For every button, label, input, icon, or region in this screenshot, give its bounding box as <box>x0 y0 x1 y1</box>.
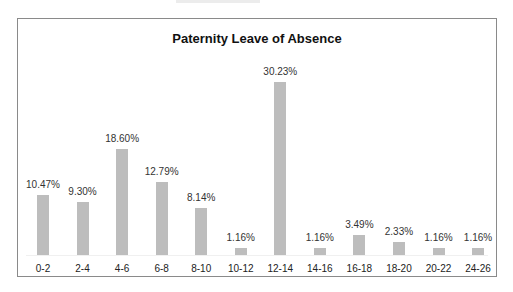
chart-baseline <box>26 255 488 256</box>
bar-8-10 <box>195 208 207 255</box>
value-label: 1.16% <box>448 232 508 243</box>
bar-20-22 <box>433 248 445 255</box>
value-label: 18.60% <box>92 133 152 144</box>
bar-14-16 <box>314 248 326 255</box>
bar-12-14 <box>274 82 286 255</box>
value-label: 1.16% <box>290 232 350 243</box>
bar-10-12 <box>235 248 247 255</box>
bar-24-26 <box>472 248 484 255</box>
top-strip <box>176 0 260 3</box>
bar-16-18 <box>353 235 365 255</box>
value-label: 1.16% <box>211 232 271 243</box>
value-label: 12.79% <box>132 166 192 177</box>
bar-2-4 <box>77 202 89 255</box>
value-label: 30.23% <box>250 66 310 77</box>
category-label: 24-26 <box>453 263 503 274</box>
value-label: 8.14% <box>171 192 231 203</box>
chart-frame: Paternity Leave of Absence 10.47%0-29.30… <box>17 18 497 277</box>
bar-0-2 <box>37 195 49 255</box>
chart-title: Paternity Leave of Absence <box>18 31 496 46</box>
bar-18-20 <box>393 242 405 255</box>
bar-4-6 <box>116 149 128 255</box>
value-label: 9.30% <box>53 186 113 197</box>
bar-6-8 <box>156 182 168 255</box>
